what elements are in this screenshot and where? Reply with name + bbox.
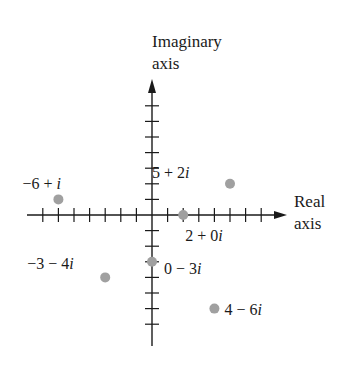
imaginary-axis-label-line1: Imaginary xyxy=(152,32,222,51)
complex-point xyxy=(178,210,188,220)
real-axis-label-line2: axis xyxy=(294,214,321,233)
imaginary-axis-arrow-icon xyxy=(148,79,156,93)
point-label: 0 − 3i xyxy=(164,260,201,277)
complex-point xyxy=(53,194,63,204)
complex-point xyxy=(225,179,235,189)
real-axis-label-line1: Real xyxy=(294,192,325,211)
complex-point xyxy=(209,304,219,314)
imaginary-axis-label-line2: axis xyxy=(152,54,179,73)
real-axis-arrow-icon xyxy=(274,211,287,219)
point-label: 4 − 6i xyxy=(224,301,261,318)
point-label: 2 + 0i xyxy=(185,227,222,244)
complex-point xyxy=(147,257,157,267)
complex-point xyxy=(100,272,110,282)
points: −6 + i5 + 2i2 + 0i−3 − 4i0 − 3i4 − 6i xyxy=(22,164,261,318)
complex-plane-diagram: −6 + i5 + 2i2 + 0i−3 − 4i0 − 3i4 − 6i Im… xyxy=(0,0,352,367)
point-label: −6 + i xyxy=(22,175,61,192)
point-label: −3 − 4i xyxy=(27,255,73,272)
point-label: 5 + 2i xyxy=(152,164,189,181)
